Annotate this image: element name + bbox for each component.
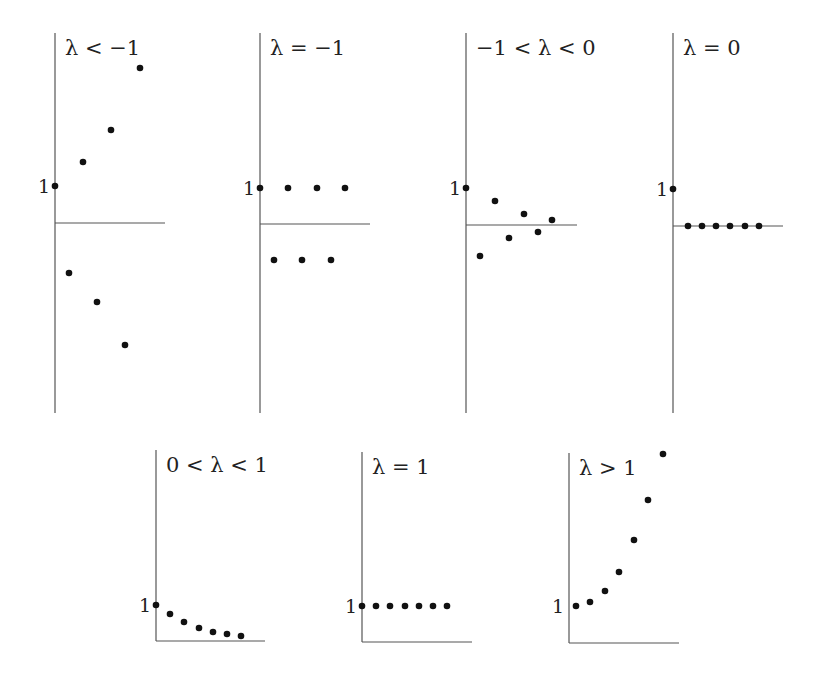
panel-5: 0 < λ < 11: [139, 450, 268, 641]
data-point: [685, 223, 692, 230]
data-point: [492, 198, 499, 205]
data-point: [342, 185, 349, 192]
data-point: [506, 235, 513, 242]
data-point: [602, 588, 609, 595]
data-point: [238, 633, 245, 640]
panel-6: λ = 11: [345, 452, 472, 642]
data-point: [631, 537, 638, 544]
y-tick-label-one: 1: [345, 595, 357, 617]
data-point: [463, 185, 470, 192]
data-point: [257, 185, 264, 192]
data-point: [210, 629, 217, 636]
panel-title: λ = −1: [270, 36, 345, 60]
data-point: [373, 603, 380, 610]
data-point: [444, 603, 451, 610]
y-tick-label-one: 1: [38, 175, 50, 197]
panel-title: λ < −1: [65, 36, 140, 60]
data-point: [359, 603, 366, 610]
data-point: [727, 223, 734, 230]
data-point: [742, 223, 749, 230]
data-point: [271, 257, 278, 264]
y-tick-label-one: 1: [449, 177, 461, 199]
panel-title: λ = 0: [683, 36, 741, 60]
data-point: [573, 603, 580, 610]
data-point: [224, 631, 231, 638]
data-point: [285, 185, 292, 192]
data-point: [66, 270, 73, 277]
data-point: [521, 211, 528, 218]
data-point: [153, 602, 160, 609]
data-point: [645, 497, 652, 504]
data-point: [699, 223, 706, 230]
data-point: [80, 159, 87, 166]
panel-title: −1 < λ < 0: [476, 36, 596, 60]
data-point: [416, 603, 423, 610]
y-tick-label-one: 1: [243, 177, 255, 199]
panel-3: −1 < λ < 01: [449, 33, 596, 413]
panel-title: λ = 1: [372, 455, 430, 479]
data-point: [52, 183, 59, 190]
data-point: [477, 253, 484, 260]
y-tick-label-one: 1: [139, 594, 151, 616]
data-point: [713, 223, 720, 230]
data-point: [137, 65, 144, 72]
data-point: [94, 299, 101, 306]
data-point: [535, 229, 542, 236]
panel-title: 0 < λ < 1: [166, 453, 268, 477]
panel-4: λ = 01: [656, 33, 783, 413]
data-point: [756, 223, 763, 230]
data-point: [314, 185, 321, 192]
data-point: [549, 217, 556, 224]
y-tick-label-one: 1: [552, 595, 564, 617]
data-point: [387, 603, 394, 610]
y-tick-label-one: 1: [656, 178, 668, 200]
data-point: [181, 619, 188, 626]
data-point: [430, 603, 437, 610]
data-point: [122, 342, 129, 349]
lambda-power-diagram: λ < −11λ = −11−1 < λ < 01λ = 010 < λ < 1…: [0, 0, 822, 673]
data-point: [616, 569, 623, 576]
data-point: [299, 257, 306, 264]
panel-2: λ = −11: [243, 33, 370, 413]
data-point: [196, 625, 203, 632]
panel-7: λ > 11: [552, 451, 679, 643]
data-point: [587, 599, 594, 606]
data-point: [108, 127, 115, 134]
data-point: [167, 611, 174, 618]
data-point: [670, 186, 677, 193]
data-point: [660, 451, 667, 458]
data-point: [328, 257, 335, 264]
data-point: [402, 603, 409, 610]
panel-1: λ < −11: [38, 33, 165, 413]
panel-title: λ > 1: [579, 456, 637, 480]
